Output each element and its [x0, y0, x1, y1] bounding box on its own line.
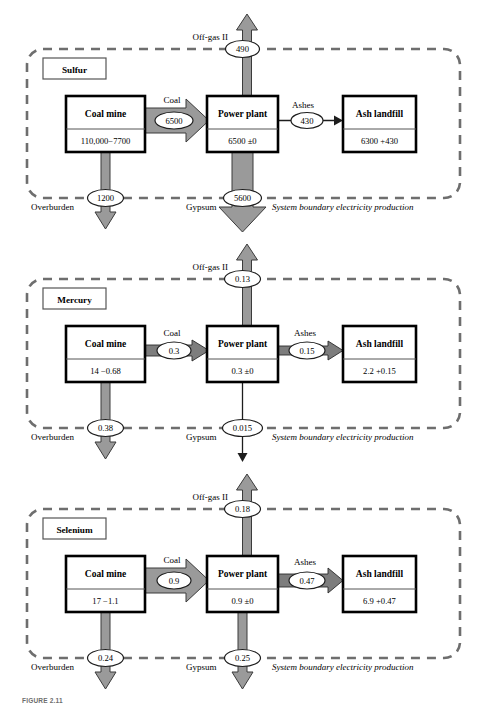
value-bubble-text: 0.25: [235, 653, 250, 663]
flow-ashes-head: [334, 116, 343, 126]
value-bubble-text: 0.9: [169, 576, 180, 586]
flow-label-gypsum: Gypsum: [186, 662, 217, 672]
flow-label-coal: Coal: [164, 555, 181, 565]
flow-value-coal-sulfur: 6500: [155, 112, 193, 129]
panel-label-text: Sulfur: [62, 65, 87, 75]
process-box-title: Power plant: [218, 569, 268, 579]
value-bubble-text: 5600: [234, 193, 251, 203]
process-box-power-plant-mercury: Power plant 0.3 ±0: [207, 326, 278, 382]
flow-value-ashes-selenium: 0.47: [289, 572, 325, 589]
process-box-ash-landfill-selenium: Ash landfill 6.9 +0.47: [343, 556, 416, 612]
flow-label-ashes: Ashes: [292, 100, 314, 110]
process-box-value: 2.2 +0.15: [363, 366, 396, 376]
value-bubble-text: 0.13: [235, 274, 250, 284]
diagram-canvas-selenium: Selenium Coal mine 17 −1.1 Power plant 0…: [0, 460, 484, 696]
process-box-value: 110,000−7700: [81, 136, 131, 146]
panel-label-text: Selenium: [56, 525, 93, 535]
value-bubble-text: 0.015: [233, 423, 252, 433]
flow-label-offgas: Off-gas II: [192, 262, 228, 272]
value-bubble-text: 490: [236, 44, 249, 54]
process-box-title: Ash landfill: [356, 109, 404, 119]
flow-label-overburden: Overburden: [31, 202, 74, 212]
process-box-coal-mine-selenium: Coal mine 17 −1.1: [66, 556, 145, 612]
process-box-title: Coal mine: [85, 339, 126, 349]
process-box-coal-mine-mercury: Coal mine 14 −0.68: [66, 326, 145, 382]
flow-value-gypsum-selenium: 0.25: [225, 650, 261, 667]
diagram-canvas-mercury: Mercury Coal mine 14 −0.68 Power plant 0…: [0, 230, 484, 466]
flow-value-gypsum-mercury: 0.015: [223, 420, 263, 437]
figure-caption: FIGURE 2.11: [22, 697, 63, 704]
process-box-title: Ash landfill: [356, 569, 404, 579]
process-box-title: Coal mine: [85, 109, 126, 119]
process-box-value: 0.3 ±0: [232, 366, 254, 376]
system-boundary-label: System boundary electricity production: [272, 662, 414, 672]
system-boundary-label: System boundary electricity production: [272, 202, 414, 212]
process-box-coal-mine-sulfur: Coal mine 110,000−7700: [66, 96, 145, 152]
flow-label-coal: Coal: [164, 95, 181, 105]
flow-label-gypsum: Gypsum: [186, 202, 217, 212]
flow-value-overburden-sulfur: 1200: [88, 190, 124, 207]
process-box-title: Power plant: [218, 109, 268, 119]
flow-label-coal: Coal: [164, 328, 181, 338]
value-bubble-text: 0.18: [235, 504, 250, 514]
value-bubble-text: 0.24: [98, 653, 114, 663]
value-bubble-text: 0.3: [169, 346, 180, 356]
panel-label-selenium: Selenium: [43, 518, 106, 539]
flow-value-overburden-selenium: 0.24: [88, 650, 124, 667]
flow-diagram-panel-selenium: Selenium Coal mine 17 −1.1 Power plant 0…: [0, 460, 484, 696]
process-box-title: Power plant: [218, 339, 268, 349]
panel-label-mercury: Mercury: [43, 288, 106, 309]
process-box-value: 6300 +430: [361, 136, 398, 146]
panel-label-sulfur: Sulfur: [43, 58, 106, 79]
process-box-power-plant-sulfur: Power plant 6500 ±0: [207, 96, 278, 152]
flow-value-ashes-mercury: 0.15: [289, 342, 325, 359]
value-bubble-text: 0.15: [299, 346, 314, 356]
flow-value-overburden-mercury: 0.38: [88, 420, 124, 437]
flow-value-offgas-sulfur: 490: [226, 41, 260, 58]
process-box-title: Coal mine: [85, 569, 126, 579]
process-box-ash-landfill-sulfur: Ash landfill 6300 +430: [343, 96, 416, 152]
value-bubble-text: 0.47: [299, 576, 315, 586]
flow-value-coal-selenium: 0.9: [157, 572, 191, 589]
process-box-value: 0.9 ±0: [232, 596, 254, 606]
flow-label-offgas: Off-gas II: [192, 32, 228, 42]
flow-value-coal-mercury: 0.3: [157, 342, 191, 359]
flow-value-gypsum-sulfur: 5600: [224, 190, 262, 207]
flow-diagram-panel-mercury: Mercury Coal mine 14 −0.68 Power plant 0…: [0, 230, 484, 466]
value-bubble-text: 6500: [165, 116, 182, 126]
process-box-value: 6500 ±0: [228, 136, 256, 146]
process-box-value: 17 −1.1: [92, 596, 118, 606]
system-boundary-label: System boundary electricity production: [272, 432, 414, 442]
flow-label-overburden: Overburden: [31, 662, 74, 672]
flow-label-gypsum: Gypsum: [186, 432, 217, 442]
value-bubble-text: 0.38: [98, 423, 113, 433]
process-box-ash-landfill-mercury: Ash landfill 2.2 +0.15: [343, 326, 416, 382]
value-bubble-text: 430: [301, 116, 314, 126]
value-bubble-text: 1200: [97, 193, 114, 203]
process-box-title: Ash landfill: [356, 339, 404, 349]
flow-label-ashes: Ashes: [294, 557, 316, 567]
flow-label-overburden: Overburden: [31, 432, 74, 442]
flow-label-offgas: Off-gas II: [192, 492, 228, 502]
flow-value-offgas-mercury: 0.13: [225, 271, 261, 288]
flow-value-ashes-sulfur: 430: [291, 113, 323, 129]
diagram-canvas-sulfur: Sulfur Coal mine 110,000−7700 Power plan…: [0, 0, 484, 236]
flow-diagram-panel-sulfur: Sulfur Coal mine 110,000−7700 Power plan…: [0, 0, 484, 236]
process-box-value: 14 −0.68: [90, 366, 121, 376]
flow-label-ashes: Ashes: [294, 328, 316, 338]
process-box-value: 6.9 +0.47: [363, 596, 396, 606]
flow-value-offgas-selenium: 0.18: [225, 501, 261, 518]
panel-label-text: Mercury: [57, 295, 92, 305]
process-box-power-plant-selenium: Power plant 0.9 ±0: [207, 556, 278, 612]
